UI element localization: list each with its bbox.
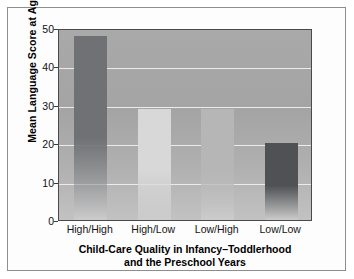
- y-tick-label-40: 40: [30, 62, 54, 73]
- bar-high-high: [74, 36, 107, 220]
- x-axis-title: Child-Care Quality in Infancy–Toddlerhoo…: [40, 243, 330, 269]
- y-tick-label-10: 10: [30, 178, 54, 189]
- x-axis-title-line-2: and the Preschool Years: [40, 256, 330, 269]
- x-axis-title-line-1: Child-Care Quality in Infancy–Toddlerhoo…: [40, 243, 330, 256]
- y-tick-mark-0: [54, 221, 58, 222]
- plot-area: [58, 29, 312, 221]
- y-tick-label-20: 20: [30, 139, 54, 150]
- bar-chart: Mean Language Score at Age 5 01020304050…: [0, 0, 354, 279]
- bar-high-low: [138, 109, 171, 220]
- y-tick-label-50: 50: [30, 24, 54, 35]
- bar-low-low: [265, 143, 298, 220]
- y-tick-label-30: 30: [30, 101, 54, 112]
- x-tick-label-low-low: Low/Low: [240, 224, 320, 235]
- bar-low-high: [201, 109, 234, 220]
